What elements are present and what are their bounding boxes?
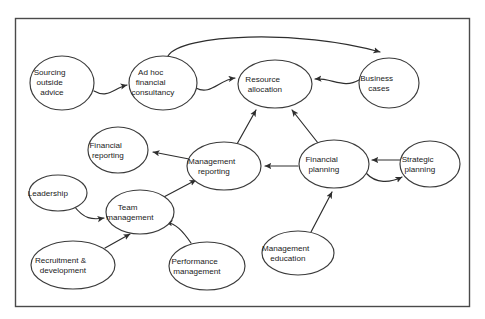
edge-recruitment-to-team-management <box>105 234 130 248</box>
edge-management-reporting-to-resource <box>237 110 256 144</box>
edge-management-reporting-to-financial-reporting <box>153 152 189 159</box>
node-business-cases[interactable]: Business cases <box>359 58 419 108</box>
node-label-sourcing-outside-advice: Sourcing outside advice <box>34 68 91 97</box>
node-strategic-planning[interactable]: Strategic planning <box>400 141 460 187</box>
node-label-business-cases: Business cases <box>360 74 418 93</box>
edge-management-education-to-financial-planning <box>311 192 332 232</box>
node-management-reporting[interactable]: Management reporting <box>187 142 261 190</box>
node-leadership[interactable]: Leadership <box>28 175 88 211</box>
node-resource-allocation[interactable]: Resource allocation <box>238 60 312 108</box>
node-label-ad-hoc-financial-consultancy: Ad hoc financial consultancy <box>132 68 195 97</box>
edge-financial-planning-to-resource <box>292 110 318 143</box>
node-team-management[interactable]: Team management <box>106 190 174 234</box>
edge-performance-to-team-management <box>166 222 191 243</box>
node-label-leadership: Leadership <box>28 189 88 198</box>
node-layer: Sourcing outside advice Ad hoc financial… <box>28 56 460 290</box>
node-label-financial-planning: Financial planning <box>305 155 362 174</box>
edge-sourcing-to-adhoc <box>94 85 127 94</box>
node-financial-reporting[interactable]: Financial reporting <box>88 127 148 173</box>
edge-business-cases-to-resource <box>315 79 359 84</box>
node-performance-management[interactable]: Performance management <box>169 242 245 290</box>
diagram-canvas: Sourcing outside advice Ad hoc financial… <box>0 0 485 319</box>
edge-adhoc-to-business-cases <box>168 37 380 56</box>
edge-team-management-to-management-reporting <box>160 180 196 199</box>
node-label-management-reporting: Management reporting <box>188 157 260 176</box>
node-financial-planning[interactable]: Financial planning <box>299 140 369 188</box>
node-label-management-education: Management education <box>262 244 334 263</box>
node-label-performance-management: Performance management <box>171 257 242 276</box>
node-label-strategic-planning: Strategic planning <box>402 155 459 174</box>
node-label-recruitment-development: Recruitment & development <box>35 256 111 275</box>
edge-financial-planning-to-strategic <box>366 173 402 181</box>
node-recruitment-development[interactable]: Recruitment & development <box>31 241 115 289</box>
concept-map-svg: Sourcing outside advice Ad hoc financial… <box>0 0 485 319</box>
node-ad-hoc-financial-consultancy[interactable]: Ad hoc financial consultancy <box>129 56 197 110</box>
node-label-resource-allocation: Resource allocation <box>245 75 304 94</box>
node-label-financial-reporting: Financial reporting <box>89 141 146 160</box>
edge-leadership-to-team-management <box>74 206 104 219</box>
edge-adhoc-to-resource <box>196 78 235 90</box>
node-management-education[interactable]: Management education <box>262 231 334 275</box>
node-sourcing-outside-advice[interactable]: Sourcing outside advice <box>30 56 94 110</box>
